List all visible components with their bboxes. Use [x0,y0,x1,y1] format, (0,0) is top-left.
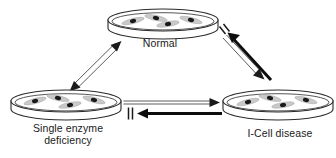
connector-icell-to-single-enzyme [137,109,222,119]
node-label-single-enzyme-line1: Single enzyme [8,123,128,135]
petri-dish-normal [108,9,218,39]
diagram-figure: Normal Single enzyme deficiency I-Cell d… [0,0,336,158]
node-label-icell-disease: I-Cell disease [228,128,332,140]
node-label-single-enzyme-deficiency: Single enzyme deficiency [8,123,128,146]
connector-normal-single-enzyme [70,41,122,92]
node-label-single-enzyme-line2: deficiency [8,135,128,147]
petri-dish-icell [223,90,333,120]
connector-normal-to-icell [223,35,265,80]
block-marker-icell-to-single-enzyme [129,108,133,120]
block-marker-icell-to-normal [220,24,230,34]
petri-dish-single-enzyme [11,90,121,120]
connector-single-enzyme-to-icell [124,98,221,107]
connector-icell-to-normal [228,33,272,81]
node-label-normal: Normal [118,38,202,50]
